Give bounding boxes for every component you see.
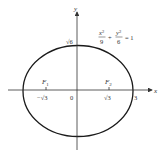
x-right-focus-label: √3	[104, 94, 111, 101]
focus-2-label: F2	[104, 78, 112, 87]
ellipse-diagram: y x 0 √6 −√3 √3 3 F1 F2 x2 9 + y2 6 = 1	[0, 0, 160, 153]
svg-text:y2: y2	[115, 29, 121, 37]
svg-text:9: 9	[100, 38, 103, 45]
x-axis-label: x	[153, 87, 158, 95]
svg-text:= 1: = 1	[125, 34, 134, 41]
x-vertex-label: 3	[134, 94, 137, 101]
ellipse-equation: x2 9 + y2 6 = 1	[98, 29, 134, 45]
svg-text:6: 6	[117, 38, 121, 45]
focus-1-label: F1	[41, 78, 49, 87]
y-axis-label: y	[73, 5, 78, 13]
svg-text:+: +	[108, 34, 112, 41]
svg-text:x2: x2	[98, 29, 104, 37]
x-left-focus-label: −√3	[37, 94, 47, 101]
origin-label: 0	[70, 94, 73, 101]
ellipse-curve	[23, 46, 133, 137]
y-top-label: √6	[66, 38, 74, 45]
